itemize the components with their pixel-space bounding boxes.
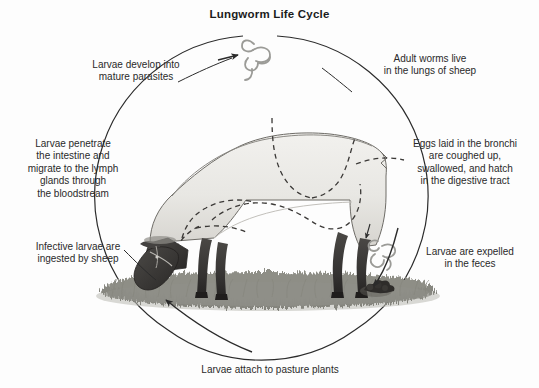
label-leaders <box>124 58 352 280</box>
life-cycle-circle <box>95 36 428 360</box>
label-adult-worms-lungs: Adult worms live in the lungs of sheep <box>350 53 510 78</box>
label-eggs-bronchi: Eggs laid in the bronchi are coughed up,… <box>392 138 538 188</box>
label-larvae-expelled: Larvae are expelled in the feces <box>404 246 536 271</box>
feces-clump-icon <box>360 280 395 297</box>
page-title: Lungworm Life Cycle <box>0 8 539 20</box>
pasture-grass-icon <box>96 272 440 311</box>
label-infective-larvae-ingested: Infective larvae are ingested by sheep <box>8 241 148 266</box>
diagram-canvas: Lungworm Life Cycle <box>0 0 539 388</box>
label-larvae-attach-pasture: Larvae attach to pasture plants <box>140 364 400 376</box>
cycle-arrows <box>166 55 398 352</box>
worm-icon-top <box>242 40 270 80</box>
label-larvae-penetrate: Larvae penetrate the intestine and migra… <box>12 138 134 200</box>
label-larvae-develop: Larvae develop into mature parasites <box>60 59 212 84</box>
grazing-sheep-icon <box>134 118 404 300</box>
internal-pathway-dashes <box>176 118 404 248</box>
worm-icon-right <box>369 240 396 270</box>
